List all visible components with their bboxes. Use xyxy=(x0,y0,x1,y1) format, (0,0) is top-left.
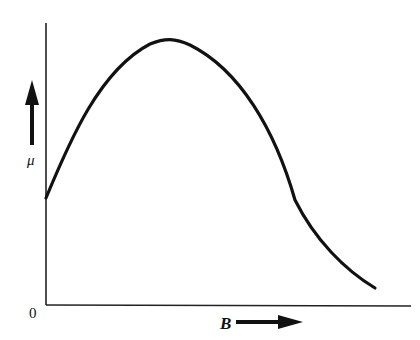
x-axis xyxy=(46,305,411,306)
origin-label: 0 xyxy=(29,305,37,321)
x-arrow-icon xyxy=(236,315,303,329)
mu-curve xyxy=(46,40,375,288)
y-arrow-icon xyxy=(25,80,39,145)
x-axis-label: B xyxy=(219,314,231,333)
y-axis-label: μ xyxy=(26,152,35,168)
mu-vs-b-chart: μ 0 B xyxy=(0,0,420,340)
